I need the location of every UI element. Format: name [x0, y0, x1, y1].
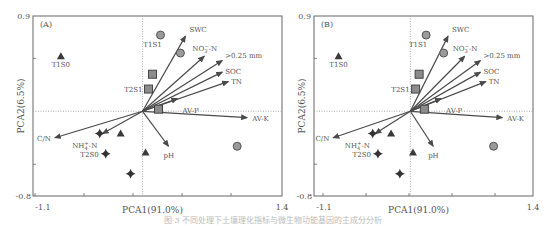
y-tick-label-top: 0.9: [298, 12, 311, 21]
suffix: -N: [209, 45, 218, 53]
triangle-marker: [117, 130, 125, 137]
vector-label: NO3−-N: [192, 43, 217, 54]
vector-label: pH: [163, 152, 174, 160]
vector-label: C/N: [37, 135, 51, 143]
panel-label: (B): [321, 20, 333, 29]
suffix: -N: [361, 142, 370, 150]
square-marker: [149, 70, 157, 78]
square-marker: [154, 105, 162, 113]
vector-label: SOC: [483, 68, 499, 76]
loading-vector: [143, 111, 169, 146]
vector-label: AV-K: [506, 115, 524, 123]
square-marker: [412, 85, 420, 93]
diamond-marker: [126, 169, 136, 179]
point-label: T1S0: [329, 61, 347, 69]
y-tick-label-bottom: -0.8: [297, 192, 312, 201]
x-tick-label-right: 1.4: [527, 203, 540, 212]
square-marker: [145, 85, 153, 93]
vector-label: NH4+-N: [72, 140, 97, 151]
loading-vector: [375, 111, 410, 133]
loading-vector: [410, 111, 433, 146]
square-marker: [420, 105, 428, 113]
loading-vector: [410, 60, 480, 111]
vector-label: C/N: [315, 135, 329, 143]
y-axis-title: PCA2(6.5%): [297, 78, 307, 133]
diamond-marker: [395, 169, 405, 179]
vector-label: SWC: [452, 26, 469, 34]
figure: 0.9-0.8-1.11.4PCA1(91.0%)PCA2(6.5%)(A)SW…: [0, 0, 546, 226]
circle-marker: [176, 49, 184, 57]
diamond-marker: [101, 149, 111, 159]
triangle-marker: [409, 149, 417, 156]
panel-label: (A): [40, 20, 52, 29]
y-tick-label-bottom: -0.8: [16, 192, 31, 201]
circle-marker: [156, 31, 164, 39]
vector-label: NO3−-N: [453, 43, 478, 54]
circle-marker: [490, 142, 498, 150]
suffix: -N: [469, 45, 478, 53]
vector-label: >0.25 mm: [225, 52, 262, 60]
triangle-marker: [57, 52, 65, 59]
loading-vector: [143, 56, 205, 111]
triangle-marker: [335, 52, 343, 59]
panel-a: 0.9-0.8-1.11.4PCA1(91.0%)PCA2(6.5%)(A)SW…: [16, 12, 289, 215]
loading-vector: [410, 56, 464, 111]
x-tick-label-left: -1.1: [35, 203, 50, 212]
circle-marker: [422, 31, 430, 39]
suffix: -N: [89, 142, 98, 150]
diamond-marker: [95, 129, 105, 139]
point-label: T2S0: [80, 151, 98, 159]
point-label: T2S0: [353, 151, 371, 159]
point-label: T2S1: [124, 86, 142, 94]
vector-label: >0.25 mm: [483, 52, 520, 60]
square-marker: [415, 70, 423, 78]
loading-vector: [103, 111, 143, 133]
point-label: T1S1: [409, 41, 427, 49]
triangle-marker: [142, 149, 150, 156]
figure-caption: 图 3 不同处理下土壤理化指标与微生物功能基因的主成分分析: [0, 214, 546, 225]
x-tick-label-left: -1.1: [316, 203, 331, 212]
vector-label: TN: [231, 78, 242, 86]
vector-label: AV-K: [251, 115, 269, 123]
triangle-marker: [387, 130, 395, 137]
vector-label: TN: [489, 78, 500, 86]
point-label: T1S1: [143, 41, 161, 49]
y-axis-title: PCA2(6.5%): [16, 78, 26, 133]
x-tick-label-right: 1.4: [276, 203, 289, 212]
circle-marker: [233, 142, 241, 150]
diamond-marker: [368, 129, 378, 139]
vector-label: NH4+-N: [345, 140, 370, 151]
loading-vector: [143, 60, 223, 111]
point-label: T1S0: [52, 61, 70, 69]
vector-label: pH: [428, 152, 439, 160]
vector-label: SOC: [225, 68, 241, 76]
panel-b: 0.9-0.8-1.11.4PCA1(91.0%)PCA2(6.5%)(B)SW…: [297, 12, 540, 215]
diamond-marker: [373, 149, 383, 159]
vector-label: SWC: [189, 26, 206, 34]
y-tick-label-top: 0.9: [17, 12, 30, 21]
circle-marker: [440, 49, 448, 57]
pca-biplot-figure: 0.9-0.8-1.11.4PCA1(91.0%)PCA2(6.5%)(A)SW…: [0, 0, 546, 226]
point-label: T2S1: [391, 86, 409, 94]
